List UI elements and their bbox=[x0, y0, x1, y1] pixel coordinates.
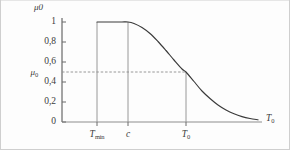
mu-level-label: μ0 bbox=[12, 68, 38, 77]
membership-curve bbox=[97, 22, 258, 120]
x-tick-label: Tmin bbox=[81, 130, 113, 140]
y-tick-label: 0,4 bbox=[30, 77, 56, 87]
y-tick-label: 0,2 bbox=[30, 97, 56, 107]
chart-figure: μ0 T0 μ0 10,80,60,40,20 TmincT0 bbox=[0, 0, 290, 150]
x-tick-marks bbox=[97, 122, 186, 126]
y-tick-label: 0,6 bbox=[30, 57, 56, 67]
y-tick-label: 1 bbox=[30, 17, 56, 27]
y-axis-title-subscript: 0 bbox=[39, 2, 44, 12]
x-axis-title-subscript: 0 bbox=[271, 117, 274, 124]
x-tick-label-subscript: min bbox=[95, 133, 105, 140]
y-tick-label: 0,8 bbox=[30, 37, 56, 47]
y-tick-label: 0 bbox=[30, 117, 56, 127]
y-axis-title: μ0 bbox=[34, 3, 43, 12]
x-tick-label-text: c bbox=[126, 129, 130, 139]
x-tick-label-subscript: 0 bbox=[187, 133, 190, 140]
x-axis-title: T0 bbox=[266, 114, 274, 124]
guide-lines bbox=[62, 22, 186, 122]
x-tick-label: c bbox=[112, 130, 144, 140]
x-tick-label: T0 bbox=[170, 130, 202, 140]
